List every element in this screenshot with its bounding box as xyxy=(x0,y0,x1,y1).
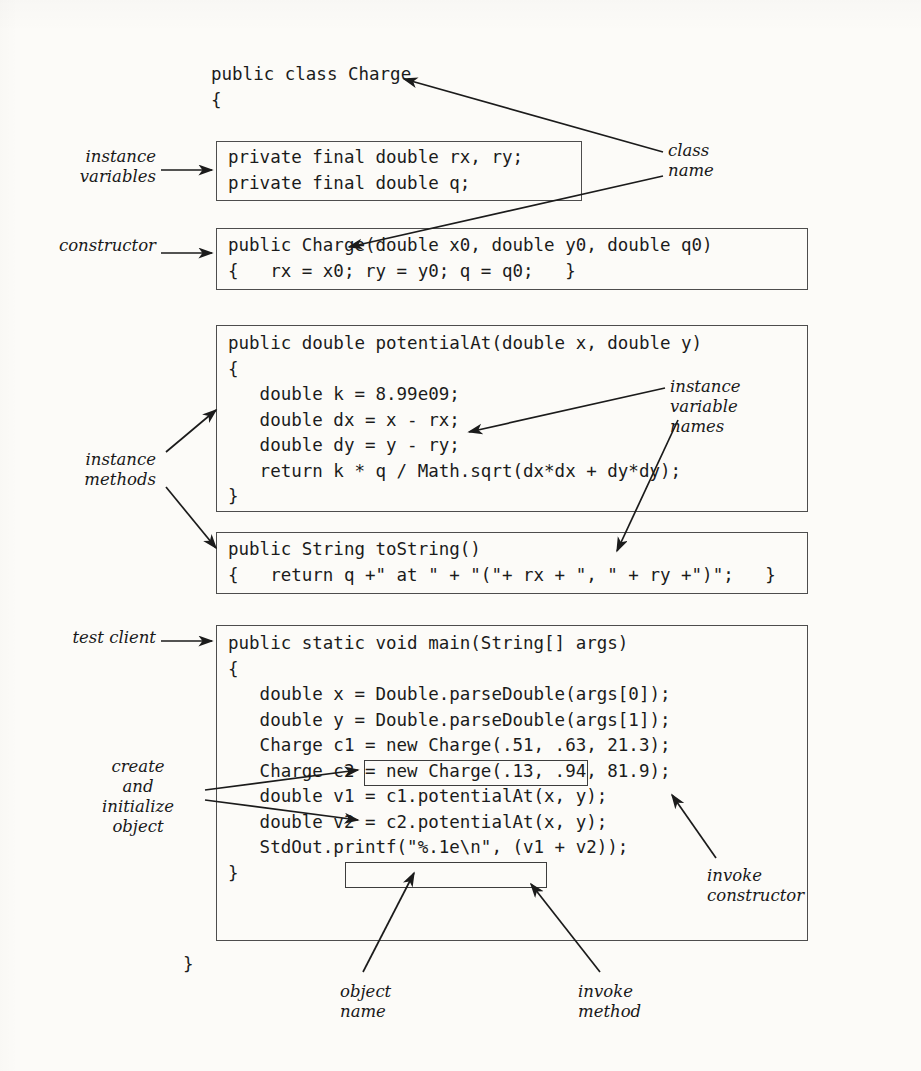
constructor-line-1: { rx = x0; ry = y0; q = q0; } xyxy=(228,261,576,281)
to-string-line-1: { return q +" at " + "("+ rx + ", " + ry… xyxy=(228,565,776,585)
instance-variables-line-1: private final double q; xyxy=(228,173,470,193)
main-line-6: double v1 = c1.potentialAt(x, y); xyxy=(228,786,607,806)
annotation-invoke-method: invoke method xyxy=(578,982,708,1022)
instance-variables-code: private final double rx, ry; private fin… xyxy=(228,145,523,196)
leader-instance-methods-to-potential-at xyxy=(166,410,216,452)
potential-at-line-2: double k = 8.99e09; xyxy=(228,384,460,404)
potential-at-line-3: double dx = x - rx; xyxy=(228,410,460,430)
annotation-instance-methods: instance methods xyxy=(36,450,156,490)
annotation-invoke-constructor: invoke constructor xyxy=(707,866,837,906)
instance-variables-line-0: private final double rx, ry; xyxy=(228,147,523,167)
potential-at-method-code: public double potentialAt(double x, doub… xyxy=(228,331,702,510)
invoke-method-highlight-box xyxy=(345,862,547,888)
annotation-instance-variables: instance variables xyxy=(36,147,156,187)
main-line-9: } xyxy=(228,863,239,883)
potential-at-line-1: { xyxy=(228,359,239,379)
potential-at-line-0: public double potentialAt(double x, doub… xyxy=(228,333,702,353)
main-line-4: Charge c1 = new Charge(.51, .63, 21.3); xyxy=(228,735,671,755)
annotation-class-name: class name xyxy=(668,141,788,181)
annotation-constructor: constructor xyxy=(16,236,156,256)
class-close-brace: } xyxy=(183,952,194,978)
code-figure-page: public class Charge { private final doub… xyxy=(0,0,921,1071)
main-line-0: public static void main(String[] args) xyxy=(228,633,628,653)
invoke-constructor-highlight-box xyxy=(364,760,588,786)
potential-at-line-6: } xyxy=(228,486,239,506)
to-string-method-code: public String toString() { return q +" a… xyxy=(228,537,776,588)
main-line-1: { xyxy=(228,659,239,679)
leader-instance-methods-to-to-string xyxy=(166,487,216,548)
constructor-code: public Charge(double x0, double y0, doub… xyxy=(228,233,713,284)
main-line-2: double x = Double.parseDouble(args[0]); xyxy=(228,684,671,704)
constructor-line-0: public Charge(double x0, double y0, doub… xyxy=(228,235,713,255)
annotation-create-initialize-object: create and initialize object xyxy=(78,757,198,837)
potential-at-line-4: double dy = y - ry; xyxy=(228,435,460,455)
annotation-test-client: test client xyxy=(36,628,156,648)
main-method-code: public static void main(String[] args) {… xyxy=(228,631,671,886)
annotation-instance-variable-names: instance variable names xyxy=(670,377,800,437)
main-line-8: StdOut.printf("%.1e\n", (v1 + v2)); xyxy=(228,837,628,857)
to-string-line-0: public String toString() xyxy=(228,539,481,559)
class-open-brace: { xyxy=(211,88,222,114)
main-line-7: double v2 = c2.potentialAt(x, y); xyxy=(228,812,607,832)
class-declaration-line: public class Charge xyxy=(211,62,411,88)
potential-at-line-5: return k * q / Math.sqrt(dx*dx + dy*dy); xyxy=(228,461,681,481)
annotation-object-name: object name xyxy=(340,982,460,1022)
main-line-3: double y = Double.parseDouble(args[1]); xyxy=(228,710,671,730)
